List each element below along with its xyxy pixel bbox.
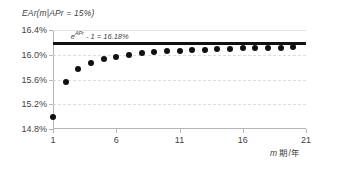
x-axis-tick <box>243 129 244 133</box>
asymptote-annotation-label: eAPr - 1 = 16.18% <box>71 30 129 41</box>
data-point <box>278 45 284 51</box>
data-point <box>240 45 246 51</box>
x-axis-tick <box>116 129 117 133</box>
data-point <box>164 48 170 54</box>
data-point <box>214 46 220 52</box>
y-axis-tick-label: 16.0% <box>21 50 47 60</box>
data-point <box>75 66 81 72</box>
x-axis-tick-label: 1 <box>50 135 55 145</box>
data-point <box>88 60 94 66</box>
data-point <box>227 46 233 52</box>
data-point <box>139 50 145 56</box>
y-axis-tick-label: 15.2% <box>21 99 47 109</box>
x-axis-title-rest: 期/年 <box>277 148 300 158</box>
gridline-horizontal <box>53 80 306 81</box>
x-axis-tick-label: 6 <box>114 135 119 145</box>
plot-area: 14.8%15.2%15.6%16.0%16.4% 16111621 eAPr … <box>53 30 306 129</box>
y-axis-tick <box>49 104 53 105</box>
data-point <box>63 79 69 85</box>
y-axis-tick <box>49 80 53 81</box>
y-axis-tick <box>49 55 53 56</box>
data-point <box>101 56 107 62</box>
chart-figure: EAr(m|APr = 15%) 14.8%15.2%15.6%16.0%16.… <box>0 0 344 174</box>
data-point <box>252 45 258 51</box>
data-point <box>202 47 208 53</box>
x-axis-tick-label: 11 <box>175 135 184 145</box>
gridline-horizontal <box>53 104 306 105</box>
y-axis-tick-label: 15.6% <box>21 75 47 85</box>
y-axis-tick-label: 16.4% <box>21 25 47 35</box>
data-point <box>177 48 183 54</box>
y-axis-tick <box>49 30 53 31</box>
data-point <box>126 52 132 58</box>
x-axis-title: m 期/年 <box>270 146 300 158</box>
y-axis-tick-label: 14.8% <box>21 124 47 134</box>
x-axis-tick <box>53 129 54 133</box>
x-axis-tick <box>180 129 181 133</box>
data-point <box>290 44 296 50</box>
x-axis-tick <box>306 129 307 133</box>
data-point <box>113 54 119 60</box>
gridline-horizontal <box>53 55 306 56</box>
data-point <box>50 114 56 120</box>
data-point <box>265 45 271 51</box>
x-axis-tick-label: 21 <box>301 135 311 145</box>
chart-title: EAr(m|APr = 15%) <box>22 8 94 18</box>
x-axis-tick-label: 16 <box>238 135 248 145</box>
data-point <box>189 47 195 53</box>
